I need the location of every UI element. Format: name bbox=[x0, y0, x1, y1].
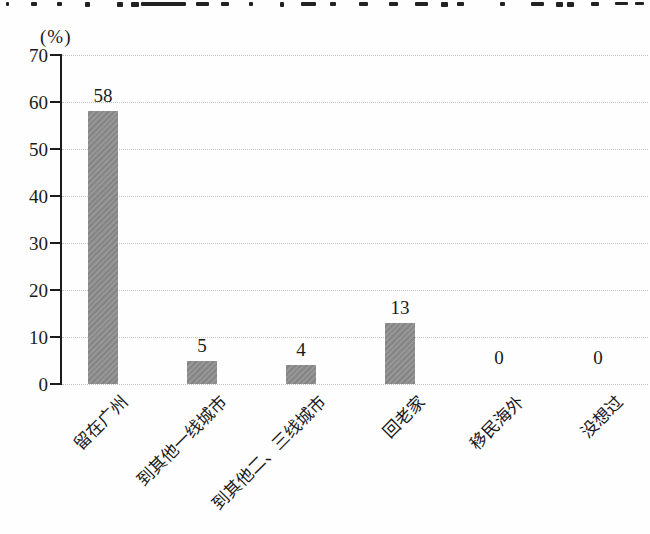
bar-1 bbox=[88, 111, 118, 384]
bar-2 bbox=[187, 361, 217, 385]
gridline-0 bbox=[62, 384, 648, 385]
y-axis-tick-label-50: 50 bbox=[4, 140, 48, 159]
y-axis-tick-40 bbox=[50, 195, 62, 197]
gridline-50 bbox=[62, 149, 648, 150]
y-axis-tick-label-70: 70 bbox=[4, 46, 48, 65]
y-axis-tick-30 bbox=[50, 242, 62, 244]
bar-value-label-4: 13 bbox=[378, 298, 422, 317]
bar-chart: 010203040506070 58541300 留在广州到其他一线城市到其他二… bbox=[0, 0, 650, 534]
category-label-text: 回老家 bbox=[380, 393, 429, 442]
y-axis-tick-20 bbox=[50, 289, 62, 291]
gridline-70 bbox=[62, 55, 648, 56]
gridline-40 bbox=[62, 196, 648, 197]
bar-value-label-6: 0 bbox=[576, 348, 620, 367]
y-axis-tick-60 bbox=[50, 101, 62, 103]
category-label-text: 移民海外 bbox=[467, 393, 528, 454]
category-label-text: 到其他一线城市 bbox=[134, 393, 231, 490]
bar-value-label-2: 5 bbox=[180, 336, 224, 355]
gridline-30 bbox=[62, 243, 648, 244]
y-axis-tick-label-10: 10 bbox=[4, 328, 48, 347]
bar-value-label-1: 58 bbox=[81, 86, 125, 105]
category-label-text: 到其他二、三线城市 bbox=[209, 393, 330, 514]
y-axis-tick-label-40: 40 bbox=[4, 187, 48, 206]
y-axis-tick-label-0: 0 bbox=[4, 375, 48, 394]
y-axis-tick-0 bbox=[50, 383, 62, 385]
gridline-60 bbox=[62, 102, 648, 103]
category-label-text: 没想过 bbox=[578, 393, 627, 442]
y-axis-tick-label-30: 30 bbox=[4, 234, 48, 253]
y-axis-tick-label-60: 60 bbox=[4, 93, 48, 112]
bar-value-label-3: 4 bbox=[279, 340, 323, 359]
y-axis-tick-70 bbox=[50, 54, 62, 56]
bar-value-label-5: 0 bbox=[477, 348, 521, 367]
y-axis-tick-label-20: 20 bbox=[4, 281, 48, 300]
bar-3 bbox=[286, 365, 316, 384]
gridline-20 bbox=[62, 290, 648, 291]
category-label-text: 留在广州 bbox=[71, 393, 132, 454]
gridline-10 bbox=[62, 337, 648, 338]
y-axis-tick-10 bbox=[50, 336, 62, 338]
scanned-bar-chart-page: (%) 010203040506070 58541300 留在广州到其他一线城市… bbox=[0, 0, 650, 534]
y-axis-tick-50 bbox=[50, 148, 62, 150]
bar-4 bbox=[385, 323, 415, 384]
